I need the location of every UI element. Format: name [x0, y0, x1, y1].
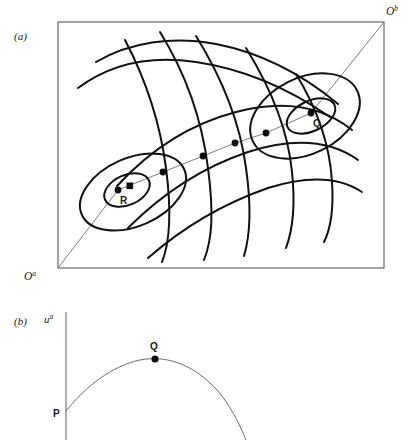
- node-dot-3: [232, 140, 239, 147]
- origin-label-ob: Ob: [386, 4, 398, 17]
- node-dot-r: [115, 187, 122, 194]
- dispersion-curve: [66, 359, 246, 440]
- scientific-figure: (a) R Q Oa: [0, 0, 411, 440]
- node-dot-r2: [127, 183, 134, 190]
- node-dot-2: [200, 153, 207, 160]
- contour-loop-r-inner: [99, 167, 155, 214]
- origin-label-oa-sup: a: [32, 269, 36, 278]
- point-label-q: Q: [313, 118, 321, 129]
- fringe-curve-5: [148, 179, 362, 258]
- node-dot-q: [308, 110, 315, 117]
- panel-b-axis-label-sup: a: [50, 312, 54, 321]
- fringe-curve-1: [78, 60, 330, 117]
- fringe-curve-7: [160, 32, 211, 260]
- origin-label-ob-sup: b: [394, 4, 398, 13]
- panel-b-node-q: [151, 355, 158, 362]
- node-dot-4: [263, 130, 270, 137]
- panel-b-group: (b) ua Q P: [14, 312, 246, 440]
- point-label-r: R: [120, 195, 128, 206]
- panel-b-point-label-p: P: [53, 408, 60, 419]
- panel-b-axis-label: ua: [44, 312, 54, 325]
- node-dot-1: [160, 169, 167, 176]
- panel-a-tag: (a): [14, 30, 27, 43]
- panel-b-tag: (b): [14, 315, 27, 328]
- fringe-curve-9: [246, 48, 294, 248]
- panel-a-group: (a) R Q Oa: [14, 4, 398, 282]
- figure-container: (a) R Q Oa: [0, 0, 411, 440]
- panel-b-point-label-q: Q: [150, 341, 158, 352]
- origin-label-oa: Oa: [24, 269, 36, 282]
